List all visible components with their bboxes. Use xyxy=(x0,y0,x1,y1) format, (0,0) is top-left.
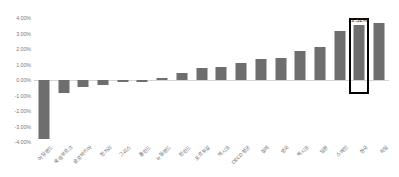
x-axis-tick-label: 일본 xyxy=(318,143,330,155)
x-axis-tick-label: 칠레 xyxy=(259,143,271,155)
bar[interactable] xyxy=(236,63,247,80)
x-axis-tick-label: OECD 평균 xyxy=(229,143,251,165)
bar-slot xyxy=(310,18,330,142)
bar-slot xyxy=(73,18,93,142)
bar[interactable] xyxy=(157,78,168,80)
y-axis-tick-label: 1.00% xyxy=(16,62,31,68)
bar-slot xyxy=(330,18,350,142)
bar[interactable] xyxy=(196,68,207,80)
bar-slot xyxy=(290,18,310,142)
x-axis-tick-label: 슬로바키아 xyxy=(71,143,93,165)
bar[interactable] xyxy=(216,67,227,80)
bar-slot xyxy=(271,18,291,142)
y-axis-tick-label: 3.00% xyxy=(16,31,31,37)
bar[interactable] xyxy=(117,80,128,82)
bar[interactable] xyxy=(98,80,109,85)
x-axis-tick-label: 뉴질랜드 xyxy=(154,143,173,162)
bar[interactable] xyxy=(275,58,286,80)
bar[interactable] xyxy=(295,51,306,80)
bar-slot xyxy=(369,18,389,142)
bar-slot xyxy=(212,18,232,142)
bar-slot xyxy=(251,18,271,142)
bar[interactable] xyxy=(255,59,266,80)
bar-slot xyxy=(172,18,192,142)
x-axis-tick-label: 영국 xyxy=(279,143,291,155)
bar-slot xyxy=(34,18,54,142)
x-axis-tick-label: 멕시코 xyxy=(216,143,231,158)
highlight-box xyxy=(349,18,369,94)
bar-slot xyxy=(113,18,133,142)
plot-area xyxy=(34,18,389,142)
bar[interactable] xyxy=(58,80,69,93)
x-axis: 아일랜드룩셈부르크슬로바키아헝가리그리스폴란드뉴질랜드핀란드포르투갈멕시코OEC… xyxy=(34,143,389,177)
x-axis-tick-label: 포르투갈 xyxy=(193,143,212,162)
x-axis-tick-label: 헝가리 xyxy=(98,143,113,158)
bar-series xyxy=(34,18,389,142)
x-axis-tick-label: 룩셈부르크 xyxy=(52,143,74,165)
bar[interactable] xyxy=(334,31,345,80)
x-axis-tick-label: 폴란드 xyxy=(137,143,152,158)
y-axis-tick-label: -3.00% xyxy=(15,124,31,130)
x-axis-tick-label: 한국 xyxy=(358,143,370,155)
bar-slot xyxy=(93,18,113,142)
bar-slot xyxy=(231,18,251,142)
bar[interactable] xyxy=(314,47,325,80)
bar[interactable] xyxy=(176,73,187,80)
y-axis-tick-label: 4.00% xyxy=(16,15,31,21)
bar-value-label: 3.52% xyxy=(345,17,373,23)
x-axis-tick-label: 아일랜드 xyxy=(35,143,54,162)
bar[interactable] xyxy=(137,80,148,82)
bar[interactable] xyxy=(374,23,385,80)
bar-slot xyxy=(133,18,153,142)
x-axis-tick-label: 스페인 xyxy=(335,143,350,158)
x-axis-tick-label: 핀란드 xyxy=(177,143,192,158)
bar-slot xyxy=(192,18,212,142)
y-axis-tick-label: -4.00% xyxy=(15,139,31,145)
bar[interactable] xyxy=(78,80,89,87)
x-axis-tick-label: 멕시코 xyxy=(295,143,310,158)
bar-chart: 4.00%3.00%2.00%1.00%0.00%-1.00%-2.00%-3.… xyxy=(0,0,399,177)
y-axis: 4.00%3.00%2.00%1.00%0.00%-1.00%-2.00%-3.… xyxy=(0,18,31,142)
y-axis-tick-label: 0.00% xyxy=(16,77,31,83)
bar-slot xyxy=(152,18,172,142)
bar[interactable] xyxy=(38,80,49,139)
x-axis-tick-label: 독일 xyxy=(377,143,389,155)
y-axis-tick-label: 2.00% xyxy=(16,46,31,52)
y-axis-tick-label: -1.00% xyxy=(15,93,31,99)
y-axis-tick-label: -2.00% xyxy=(15,108,31,114)
x-axis-tick-label: 그리스 xyxy=(118,143,133,158)
bar-slot xyxy=(54,18,74,142)
